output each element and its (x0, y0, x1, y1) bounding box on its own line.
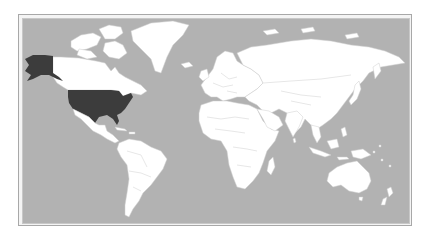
world-map (22, 18, 410, 224)
